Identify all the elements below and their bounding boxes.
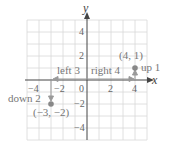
point-label-4-1: (4, 1) xyxy=(119,50,143,61)
down-arrow-icon xyxy=(49,96,54,101)
tick-y-2: 2 xyxy=(79,51,84,61)
down-2-label: down 2 xyxy=(8,93,41,104)
tick-x-0: 0 xyxy=(79,84,84,94)
y-axis-label: y xyxy=(83,2,88,14)
left-3-label: left 3 xyxy=(57,65,80,76)
tick-y-4: 4 xyxy=(79,27,84,37)
point-label-neg3-neg2: (−3, −2) xyxy=(33,107,69,118)
tick-y-neg2: −2 xyxy=(74,99,85,109)
up-1-label: up 1 xyxy=(141,62,160,73)
point-4-1 xyxy=(132,65,138,71)
coordinate-plane xyxy=(0,0,170,147)
right-4-label: right 4 xyxy=(91,65,120,76)
tick-y-neg4: −4 xyxy=(74,123,85,133)
x-axis-label: x xyxy=(152,74,157,86)
tick-x-2: 2 xyxy=(108,84,113,94)
tick-x-4: 4 xyxy=(132,84,137,94)
left-arrow-icon xyxy=(53,77,58,82)
tick-x-neg2: −2 xyxy=(54,84,65,94)
right-arrow-icon xyxy=(129,77,134,82)
